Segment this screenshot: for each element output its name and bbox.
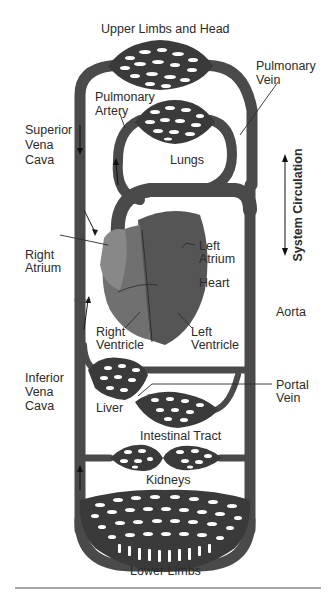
portal-vein-label: Portal Vein	[276, 378, 312, 405]
kidneys-capillary-bed	[110, 445, 222, 471]
right-atrium-label: Right Atrium	[25, 248, 61, 275]
intestinal-tract-capillary-bed	[135, 392, 218, 428]
inferior-vena-cava-label: Inferior Vena Cava	[25, 371, 67, 413]
left-atrium-label: Left Atrium	[199, 239, 235, 266]
liver-capillary-bed	[88, 358, 148, 401]
kidneys-label: Kidneys	[146, 473, 190, 487]
system-circulation-indicator: System Circulation	[282, 148, 305, 261]
pulmonary-vein-label: Pulmonary Vein	[256, 59, 319, 87]
lower-limbs-label: Lower Limbs	[130, 564, 201, 578]
hepatic-artery-vessel	[140, 365, 250, 370]
aorta-label: Aorta	[276, 305, 306, 319]
lungs-capillary-bed	[135, 100, 215, 144]
upper-limbs-label: Upper Limbs and Head	[101, 22, 230, 36]
system-circulation-label: System Circulation	[291, 148, 305, 261]
circulatory-system-diagram: System Circulation Upper Limbs and Head …	[0, 0, 332, 593]
left-ventricle-label: Left Ventricle	[191, 325, 239, 352]
liver-label: Liver	[96, 401, 123, 415]
heart-label: Heart	[199, 276, 230, 290]
arrow-up-icon	[282, 154, 288, 162]
portal-vein-vessel	[215, 375, 238, 410]
superior-vena-cava-label: Superior Vena Cava	[25, 123, 76, 167]
upper-limbs-capillary-bed	[108, 40, 213, 90]
intestinal-tract-label: Intestinal Tract	[140, 429, 222, 443]
arrow-down-icon	[282, 248, 288, 256]
lungs-label: Lungs	[170, 153, 204, 167]
